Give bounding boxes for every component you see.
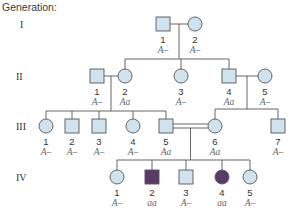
individual-III-1: 1A– <box>39 119 53 157</box>
individual-II-1: 1A– <box>90 69 104 107</box>
male-square <box>156 17 170 31</box>
genotype-label: A– <box>66 147 78 157</box>
individual-number: 3 <box>178 86 183 97</box>
individual-III-3: 3A– <box>92 119 106 157</box>
genotype-label: A– <box>272 147 284 157</box>
individual-III-4: 4A– <box>126 119 140 157</box>
female-circle <box>118 69 132 83</box>
genotype-label: A– <box>127 147 139 157</box>
female-circle <box>110 170 124 184</box>
individual-number: 1 <box>43 136 48 147</box>
individuals: 1A–2A–1A–2Aa3A–4Aa5A–1A–2A–3A–4A–5Aa6Aa7… <box>39 17 285 208</box>
individual-number: 2 <box>69 136 74 147</box>
individual-II-3: 3A– <box>174 69 188 107</box>
generation-label: III <box>16 121 26 132</box>
genotype-label: A– <box>111 198 123 208</box>
female-circle <box>188 17 202 31</box>
generation-label: I <box>20 19 23 30</box>
female-circle <box>126 119 140 133</box>
genotype-label: aa <box>217 198 227 208</box>
generation-labels: IIIIIIIV <box>16 19 27 183</box>
individual-IV-2: 2aa <box>145 170 159 208</box>
individual-I-1: 1A– <box>156 17 170 55</box>
genotype-label: A– <box>91 97 103 107</box>
genotype-label: A– <box>93 147 105 157</box>
individual-II-5: 5A– <box>258 69 272 107</box>
individual-number: 5 <box>262 86 267 97</box>
pedigree-chart: IIIIIIIV 1A–2A–1A–2Aa3A–4Aa5A–1A–2A–3A–4… <box>0 0 300 215</box>
male-square <box>92 119 106 133</box>
individual-number: 3 <box>96 136 101 147</box>
male-square <box>90 69 104 83</box>
individual-IV-4: 4aa <box>215 170 229 208</box>
individual-II-4: 4Aa <box>222 69 236 107</box>
male-square <box>159 119 173 133</box>
genotype-label: A– <box>157 45 169 55</box>
individual-III-2: 2A– <box>65 119 79 157</box>
individual-IV-3: 3A– <box>179 170 193 208</box>
genotype-label: A– <box>40 147 52 157</box>
genotype-label: Aa <box>119 97 131 107</box>
female-circle <box>215 170 229 184</box>
female-circle <box>174 69 188 83</box>
individual-I-2: 2A– <box>188 17 202 55</box>
individual-number: 5 <box>163 136 168 147</box>
genotype-label: A– <box>180 198 192 208</box>
male-square <box>179 170 193 184</box>
individual-number: 2 <box>192 34 197 45</box>
individual-number: 3 <box>183 187 188 198</box>
genotype-label: A– <box>259 97 271 107</box>
female-circle <box>208 119 222 133</box>
individual-II-2: 2Aa <box>118 69 132 107</box>
individual-number: 4 <box>219 187 224 198</box>
individual-IV-5: 5A– <box>243 170 257 208</box>
genotype-label: Aa <box>209 147 221 157</box>
individual-number: 1 <box>94 86 99 97</box>
genotype-label: A– <box>175 97 187 107</box>
individual-number: 7 <box>275 136 280 147</box>
individual-number: 1 <box>160 34 165 45</box>
genotype-label: A– <box>189 45 201 55</box>
male-square <box>271 119 285 133</box>
male-square <box>145 170 159 184</box>
genotype-label: aa <box>147 198 157 208</box>
generation-label: II <box>16 71 23 82</box>
individual-III-5: 5Aa <box>159 119 173 157</box>
individual-IV-1: 1A– <box>110 170 124 208</box>
genotype-label: Aa <box>223 97 235 107</box>
female-circle <box>243 170 257 184</box>
individual-number: 2 <box>149 187 154 198</box>
male-square <box>65 119 79 133</box>
individual-number: 5 <box>247 187 252 198</box>
generation-label: IV <box>16 172 27 183</box>
genotype-label: A– <box>244 198 256 208</box>
individual-III-7: 7A– <box>271 119 285 157</box>
individual-number: 4 <box>130 136 135 147</box>
female-circle <box>258 69 272 83</box>
male-square <box>222 69 236 83</box>
individual-number: 2 <box>122 86 127 97</box>
individual-number: 4 <box>226 86 231 97</box>
individual-number: 1 <box>114 187 119 198</box>
individual-III-6: 6Aa <box>208 119 222 157</box>
genotype-label: Aa <box>160 147 172 157</box>
individual-number: 6 <box>212 136 217 147</box>
female-circle <box>39 119 53 133</box>
